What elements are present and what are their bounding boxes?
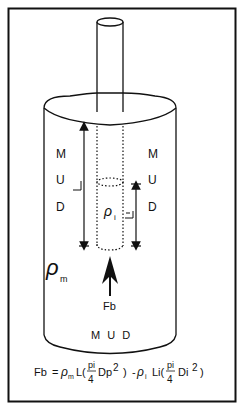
svg-text:ρ: ρ bbox=[136, 365, 144, 379]
svg-text:4: 4 bbox=[167, 374, 173, 385]
svg-text:pi: pi bbox=[88, 360, 95, 370]
svg-text:): ) bbox=[200, 366, 204, 378]
svg-text:ρ: ρ bbox=[60, 365, 68, 379]
mud-left-m: M bbox=[56, 147, 66, 161]
mud-right-d: D bbox=[148, 200, 157, 214]
density-mud-symbol: ρ bbox=[45, 255, 59, 280]
buoyancy-diagram: M U D M U D ρ i ρ m Fb M U D Fb = ρ m L(… bbox=[0, 0, 244, 413]
mud-right-u: U bbox=[148, 173, 157, 187]
mud-right-m: M bbox=[148, 147, 158, 161]
mud-left-u: U bbox=[56, 173, 65, 187]
drill-pipe bbox=[97, 18, 123, 112]
density-inner-symbol: ρ bbox=[103, 203, 112, 219]
mud-bottom: M U D bbox=[91, 329, 132, 341]
frame-border bbox=[9, 9, 236, 402]
svg-text:Di: Di bbox=[178, 366, 188, 378]
density-inner-sub: i bbox=[114, 213, 116, 222]
buoyancy-equation: Fb = ρ m L( pi 4 Dp 2 ) - ρ i Li( pi 4 D… bbox=[34, 360, 204, 385]
force-label: Fb bbox=[103, 300, 116, 312]
svg-text:Dp: Dp bbox=[98, 366, 112, 378]
svg-text:4: 4 bbox=[88, 374, 94, 385]
length-li-dimension bbox=[125, 184, 141, 246]
svg-text:2: 2 bbox=[113, 362, 119, 373]
svg-text:-: - bbox=[132, 366, 136, 378]
svg-text:Li(: Li( bbox=[152, 366, 165, 378]
svg-text:m: m bbox=[68, 373, 74, 380]
svg-text:2: 2 bbox=[192, 362, 198, 373]
svg-text:): ) bbox=[123, 366, 127, 378]
svg-text:pi: pi bbox=[167, 360, 174, 370]
mud-left-d: D bbox=[56, 200, 65, 214]
wellbore-cylinder bbox=[44, 93, 176, 354]
inner-pipe-dotted bbox=[97, 126, 123, 250]
buoyancy-force-arrow bbox=[102, 256, 118, 296]
svg-text:=: = bbox=[52, 366, 58, 378]
svg-text:i: i bbox=[145, 373, 147, 380]
density-mud-sub: m bbox=[60, 274, 68, 284]
svg-text:Fb: Fb bbox=[34, 366, 47, 378]
svg-text:L(: L( bbox=[76, 366, 86, 378]
length-l-dimension bbox=[73, 126, 89, 246]
